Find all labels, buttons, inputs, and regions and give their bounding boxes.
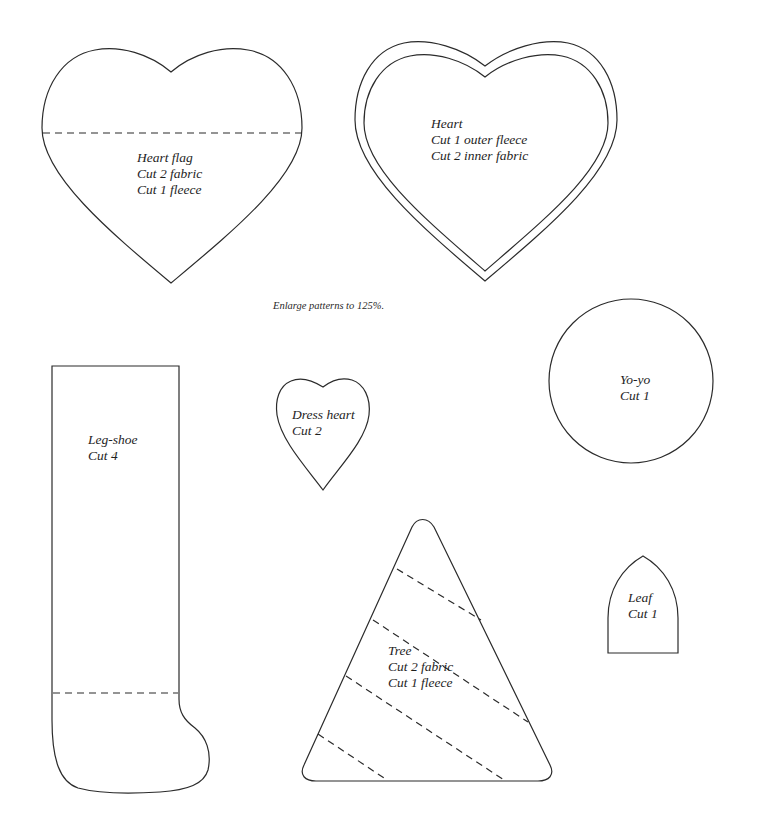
dress-heart-cut: Cut 2 [292, 423, 355, 439]
heart-flag-label: Heart flag Cut 2 fabric Cut 1 fleece [137, 150, 202, 198]
heart-cut-outer: Cut 1 outer fleece [431, 132, 528, 148]
heart-label: Heart Cut 1 outer fleece Cut 2 inner fab… [431, 116, 528, 164]
pattern-sheet: Heart flag Cut 2 fabric Cut 1 fleece Hea… [0, 0, 771, 830]
heart-flag-cut-fabric: Cut 2 fabric [137, 166, 202, 182]
yo-yo-title: Yo-yo [620, 372, 650, 388]
tree-cut-fleece: Cut 1 fleece [388, 675, 453, 691]
leg-shoe-cut: Cut 4 [88, 448, 138, 464]
dress-heart-title: Dress heart [292, 407, 355, 423]
tree-label: Tree Cut 2 fabric Cut 1 fleece [388, 643, 453, 691]
heart-flag-title: Heart flag [137, 150, 202, 166]
leaf-title: Leaf [628, 590, 658, 606]
leg-shoe-shape [52, 366, 209, 793]
heart-title: Heart [431, 116, 528, 132]
heart-cut-inner: Cut 2 inner fabric [431, 148, 528, 164]
leg-shoe-label: Leg-shoe Cut 4 [88, 432, 138, 464]
enlarge-note: Enlarge patterns to 125%. [273, 300, 384, 311]
yo-yo-cut: Cut 1 [620, 388, 650, 404]
tree-title: Tree [388, 643, 453, 659]
leaf-label: Leaf Cut 1 [628, 590, 658, 622]
leaf-cut: Cut 1 [628, 606, 658, 622]
pattern-shapes [0, 0, 771, 830]
leg-shoe-title: Leg-shoe [88, 432, 138, 448]
yo-yo-label: Yo-yo Cut 1 [620, 372, 650, 404]
heart-flag-cut-fleece: Cut 1 fleece [137, 182, 202, 198]
dress-heart-label: Dress heart Cut 2 [292, 407, 355, 439]
tree-cut-fabric: Cut 2 fabric [388, 659, 453, 675]
